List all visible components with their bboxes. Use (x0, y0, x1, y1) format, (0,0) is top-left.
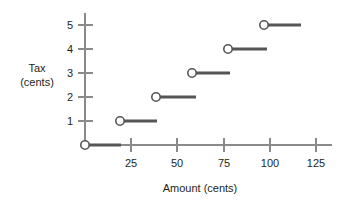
x-tick-label-50: 50 (171, 157, 183, 169)
step-chart: 1 2 3 4 5 25 50 75 100 125 (0, 0, 343, 205)
y-axis-title-line-1: Tax (28, 62, 46, 74)
y-tick-label-1: 1 (67, 115, 73, 127)
step-function-series (81, 21, 301, 149)
y-tick-label-3: 3 (67, 67, 73, 79)
chart-canvas: 1 2 3 4 5 25 50 75 100 125 (0, 0, 343, 205)
x-tick-label-25: 25 (125, 157, 137, 169)
step-marker-tax-1 (116, 117, 124, 125)
x-axis-tick-labels: 25 50 75 100 125 (125, 157, 325, 169)
step-marker-tax-2 (152, 93, 160, 101)
x-tick-label-100: 100 (261, 157, 279, 169)
y-tick-label-5: 5 (67, 19, 73, 31)
y-axis-tick-labels: 1 2 3 4 5 (67, 19, 73, 127)
step-marker-tax-4 (224, 45, 232, 53)
x-tick-label-125: 125 (307, 157, 325, 169)
y-axis-title-line-2: (cents) (20, 76, 54, 88)
step-marker-tax-5 (260, 21, 268, 29)
y-tick-label-2: 2 (67, 91, 73, 103)
x-tick-label-75: 75 (218, 157, 230, 169)
step-marker-tax-0 (81, 141, 89, 149)
x-axis-title: Amount (cents) (163, 182, 238, 194)
step-marker-tax-3 (188, 69, 196, 77)
y-tick-label-4: 4 (67, 43, 73, 55)
y-axis-title: Tax (cents) (20, 62, 54, 88)
